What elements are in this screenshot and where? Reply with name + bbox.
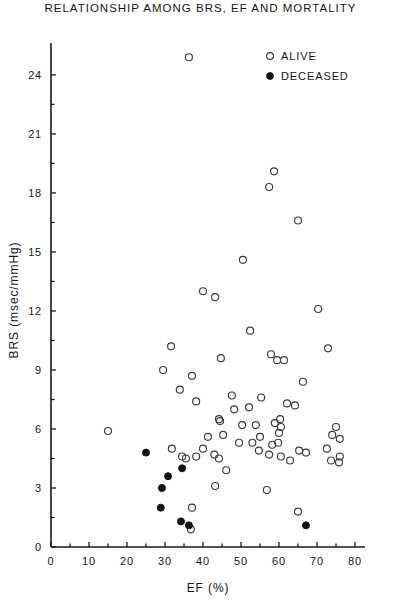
y-axis-tick-labels: 03691215182124 (28, 69, 42, 553)
data-point-deceased (165, 473, 172, 480)
plot-area: 03691215182124 01020304050607080 BRS (ms… (0, 0, 401, 601)
data-point-alive (263, 486, 270, 493)
x-tick-label: 60 (272, 555, 286, 567)
data-point-alive (252, 422, 259, 429)
data-point-alive (239, 422, 246, 429)
data-point-alive (277, 453, 284, 460)
data-point-alive (268, 351, 275, 358)
x-tick-label: 70 (310, 555, 324, 567)
data-point-alive (333, 424, 340, 431)
data-point-alive (315, 305, 322, 312)
x-axis-label: EF (%) (187, 581, 230, 595)
y-tick-label: 9 (35, 364, 42, 376)
chart-legend: ALIVE DECEASED (267, 50, 349, 82)
data-point-alive (255, 447, 262, 454)
data-point-alive (280, 357, 287, 364)
data-point-alive (204, 433, 211, 440)
x-tick-label: 50 (234, 555, 248, 567)
data-point-alive (215, 455, 222, 462)
y-tick-label: 0 (35, 541, 42, 553)
legend-marker-alive-icon (267, 53, 274, 60)
data-point-alive (168, 445, 175, 452)
data-point-alive (211, 451, 218, 458)
data-point-deceased (158, 484, 165, 491)
data-point-alive (328, 457, 335, 464)
data-point-alive (160, 366, 167, 373)
data-point-alive (200, 445, 207, 452)
x-tick-label: 10 (82, 555, 96, 567)
y-tick-label: 18 (28, 187, 42, 199)
data-point-alive (291, 402, 298, 409)
data-point-alive (266, 184, 273, 191)
data-point-alive (193, 398, 200, 405)
data-point-alive (185, 54, 192, 61)
data-point-alive (176, 386, 183, 393)
data-point-alive (266, 451, 273, 458)
data-point-alive (336, 435, 343, 442)
legend-label-deceased: DECEASED (281, 70, 349, 82)
legend-marker-deceased-icon (267, 73, 274, 80)
data-point-deceased (302, 522, 309, 529)
data-point-alive (325, 345, 332, 352)
data-point-alive (295, 217, 302, 224)
data-point-alive (188, 372, 195, 379)
data-point-alive (236, 439, 243, 446)
data-point-alive (168, 343, 175, 350)
data-point-alive (193, 453, 200, 460)
series-alive-points (105, 54, 344, 533)
y-tick-label: 24 (28, 69, 42, 81)
x-tick-label: 20 (120, 555, 134, 567)
data-point-alive (200, 288, 207, 295)
data-point-deceased (157, 504, 164, 511)
data-point-alive (302, 449, 309, 456)
data-point-alive (258, 394, 265, 401)
data-point-alive (239, 256, 246, 263)
x-tick-label: 80 (348, 555, 362, 567)
data-point-alive (323, 445, 330, 452)
data-point-alive (212, 294, 219, 301)
data-point-alive (247, 327, 254, 334)
x-tick-label: 30 (158, 555, 172, 567)
legend-label-alive: ALIVE (281, 50, 317, 62)
data-point-alive (296, 447, 303, 454)
data-point-alive (231, 406, 238, 413)
data-point-alive (287, 457, 294, 464)
data-point-alive (299, 378, 306, 385)
data-point-alive (329, 431, 336, 438)
data-point-deceased (179, 465, 186, 472)
data-point-alive (274, 357, 281, 364)
data-point-deceased (185, 522, 192, 529)
data-point-alive (249, 439, 256, 446)
x-tick-label: 0 (48, 555, 55, 567)
y-tick-label: 15 (28, 246, 42, 258)
data-point-deceased (143, 449, 150, 456)
data-point-alive (105, 427, 112, 434)
data-point-alive (220, 431, 227, 438)
data-point-alive (217, 418, 224, 425)
y-tick-label: 21 (28, 128, 42, 140)
data-point-alive (223, 467, 230, 474)
data-point-alive (271, 168, 278, 175)
data-point-alive (188, 504, 195, 511)
y-tick-label: 6 (35, 423, 42, 435)
y-tick-label: 12 (28, 305, 42, 317)
data-point-alive (275, 439, 282, 446)
data-point-alive (283, 400, 290, 407)
data-point-alive (277, 416, 284, 423)
x-tick-label: 40 (196, 555, 210, 567)
data-point-deceased (177, 518, 184, 525)
data-point-alive (212, 483, 219, 490)
data-point-alive (295, 508, 302, 515)
y-tick-label: 3 (35, 482, 42, 494)
x-axis-tick-labels: 01020304050607080 (48, 555, 362, 567)
data-point-alive (217, 355, 224, 362)
data-point-alive (245, 404, 252, 411)
data-point-alive (257, 433, 264, 440)
data-point-alive (228, 392, 235, 399)
y-axis-label: BRS (msec/mmHg) (7, 242, 21, 359)
series-deceased-points (143, 449, 310, 529)
scatter-chart-figure: RELATIONSHIP AMONG BRS, EF AND MORTALITY… (0, 0, 401, 601)
